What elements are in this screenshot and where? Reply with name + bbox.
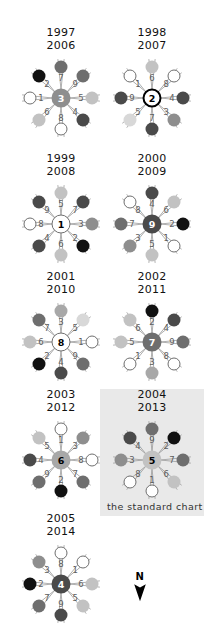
data-marker (24, 454, 37, 467)
data-marker (86, 92, 99, 105)
rosette-1999-2008: 19992008573264891 (10, 152, 112, 270)
rosette-center-hub: 2 (143, 89, 162, 108)
spoke-number-label: 8 (163, 80, 168, 89)
data-marker (146, 423, 159, 436)
rosette-year-labels: 19992008 (10, 152, 112, 178)
spoke-number-label: 6 (163, 206, 168, 215)
rosette-year-labels: 20052014 (10, 512, 112, 538)
spoke-number-label: 2 (163, 442, 168, 451)
data-marker (55, 61, 68, 74)
spoke-number-label: 3 (44, 566, 49, 575)
rosette-year-labels: 19982007 (101, 26, 203, 52)
rosette-year-labels: 20002009 (101, 152, 203, 178)
rosette-1997-2006: 19972006795486123 (10, 26, 112, 144)
spoke-number-label: 8 (78, 456, 83, 465)
spoke-number-label: 2 (44, 80, 49, 89)
rosette-center-hub: 7 (143, 333, 162, 352)
spoke-number-label: 5 (78, 94, 83, 103)
spoke-number-label: 4 (135, 442, 140, 451)
data-marker (115, 218, 128, 231)
spoke-number-label: 6 (135, 324, 140, 333)
spoke-number-label: 1 (135, 80, 140, 89)
year-secondary: 2012 (10, 401, 112, 414)
spoke-number-label: 1 (38, 94, 43, 103)
data-marker (86, 454, 99, 467)
spoke-number-label: 1 (58, 436, 63, 445)
data-marker (55, 609, 68, 622)
data-marker (177, 454, 190, 467)
rosette-center-hub: 6 (52, 451, 71, 470)
spoke-number-label: 4 (72, 108, 77, 117)
data-marker (76, 556, 89, 569)
rosette-plot: 138729456 (10, 415, 112, 506)
spoke-number-label: 8 (163, 352, 168, 361)
north-label: N (132, 572, 148, 582)
rosette-2002-2011: 20022011249831567 (101, 270, 203, 388)
year-secondary: 2007 (101, 39, 203, 52)
spoke-number-label: 8 (135, 206, 140, 215)
data-marker (24, 218, 37, 231)
year-primary: 1999 (10, 152, 112, 165)
data-marker (146, 61, 159, 74)
spoke-number-label: 3 (58, 318, 63, 327)
data-marker (146, 249, 159, 262)
data-marker (146, 123, 159, 136)
year-primary: 1997 (10, 26, 112, 39)
spoke-number-label: 6 (58, 240, 63, 249)
data-marker (167, 70, 180, 83)
spoke-number-label: 4 (163, 324, 168, 333)
data-marker (55, 305, 68, 318)
data-marker (24, 578, 37, 591)
rosette-year-labels: 20012010 (10, 270, 112, 296)
spoke-number-label: 9 (44, 470, 49, 479)
data-marker (115, 92, 128, 105)
spoke-number-label: 6 (163, 470, 168, 479)
spoke-number-label: 4 (169, 94, 174, 103)
spoke-number-label: 2 (58, 476, 63, 485)
spoke-number-label: 5 (72, 324, 77, 333)
spoke-number-label: 5 (135, 108, 140, 117)
data-marker (55, 547, 68, 560)
spoke-number-label: 7 (44, 594, 49, 603)
spoke-number-label: 8 (38, 220, 43, 229)
data-marker (55, 423, 68, 436)
spoke-number-label: 7 (72, 206, 77, 215)
data-marker (55, 249, 68, 262)
spoke-number-label: 4 (58, 358, 63, 367)
data-marker (146, 485, 159, 498)
spoke-number-label: 2 (149, 318, 154, 327)
spoke-number-label: 4 (44, 234, 49, 243)
rosette-plot: 684375912 (101, 53, 203, 144)
rosette-center-hub: 9 (143, 215, 162, 234)
spoke-number-label: 4 (149, 200, 154, 209)
spoke-number-label: 7 (72, 470, 77, 479)
data-marker (24, 336, 37, 349)
rosette-plot: 816597234 (10, 539, 112, 630)
rosette-2003-2012: 20032012138729456 (10, 388, 112, 506)
rosette-center-hub: 5 (143, 451, 162, 470)
rosette-plot: 927618345 (101, 415, 203, 506)
spoke-number-label: 5 (149, 240, 154, 249)
data-marker (167, 113, 180, 126)
spoke-number-label: 7 (149, 114, 154, 123)
year-primary: 2002 (101, 270, 203, 283)
data-marker (76, 70, 89, 83)
spoke-number-label: 2 (44, 352, 49, 361)
rosette-year-labels: 20042013 (101, 388, 203, 414)
spoke-number-label: 9 (72, 80, 77, 89)
spoke-number-label: 2 (38, 580, 43, 589)
spoke-number-label: 9 (44, 206, 49, 215)
year-secondary: 2006 (10, 39, 112, 52)
spoke-number-label: 3 (149, 358, 154, 367)
spoke-number-label: 5 (72, 594, 77, 603)
spoke-number-label: 5 (58, 200, 63, 209)
data-marker (86, 578, 99, 591)
spoke-number-label: 7 (44, 324, 49, 333)
spoke-number-label: 5 (129, 338, 134, 347)
spoke-number-label: 2 (169, 220, 174, 229)
rosette-plot: 462153789 (101, 179, 203, 270)
spoke-number-label: 3 (78, 220, 83, 229)
spoke-number-label: 7 (129, 220, 134, 229)
data-marker (55, 123, 68, 136)
data-marker (177, 218, 190, 231)
